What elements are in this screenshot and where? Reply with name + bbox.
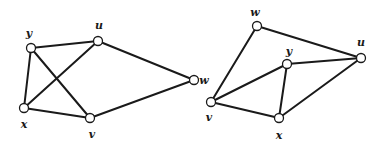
graph-left-label-w: w: [199, 74, 209, 87]
edges-layer: [24, 26, 361, 118]
graph-left-node-x: [20, 104, 29, 113]
graph-left-node-v: [86, 114, 95, 123]
graph-right-edge-x-u: [279, 58, 361, 118]
labels-layer: yuwxvwuyvx: [20, 6, 365, 142]
graph-right-label-y: y: [285, 45, 294, 58]
graph-right-edge-y-x: [279, 64, 287, 118]
graph-right-node-v: [207, 98, 216, 107]
graph-left-node-u: [94, 37, 103, 46]
graph-right-label-w: w: [250, 6, 260, 19]
graph-left-node-y: [27, 44, 36, 53]
graph-left-edge-y-v: [31, 48, 90, 118]
graph-left-edge-y-x: [24, 48, 31, 108]
graph-left-node-w: [190, 76, 199, 85]
graph-right-node-w: [253, 22, 262, 31]
graph-right-edge-y-u: [287, 58, 361, 64]
graph-right-edge-v-x: [211, 102, 279, 118]
graph-left-edge-y-u: [31, 41, 98, 48]
graph-left-label-y: y: [25, 27, 34, 40]
graph-diagram: yuwxvwuyvx: [0, 0, 384, 143]
graph-left-edge-u-w: [98, 41, 194, 80]
graph-right-node-u: [357, 54, 366, 63]
graph-left-edge-v-w: [90, 80, 194, 118]
graph-left-label-v: v: [89, 128, 96, 141]
graph-right-label-x: x: [275, 129, 283, 142]
graph-right-edge-w-u: [257, 26, 361, 58]
graph-right-label-u: u: [357, 36, 365, 49]
graph-left-label-x: x: [20, 118, 28, 131]
graph-right-node-y: [283, 60, 292, 69]
graph-right-label-v: v: [206, 111, 213, 124]
graph-left-label-u: u: [95, 19, 103, 32]
nodes-layer: [20, 22, 366, 123]
graph-right-node-x: [275, 114, 284, 123]
graph-left-edge-x-v: [24, 108, 90, 118]
